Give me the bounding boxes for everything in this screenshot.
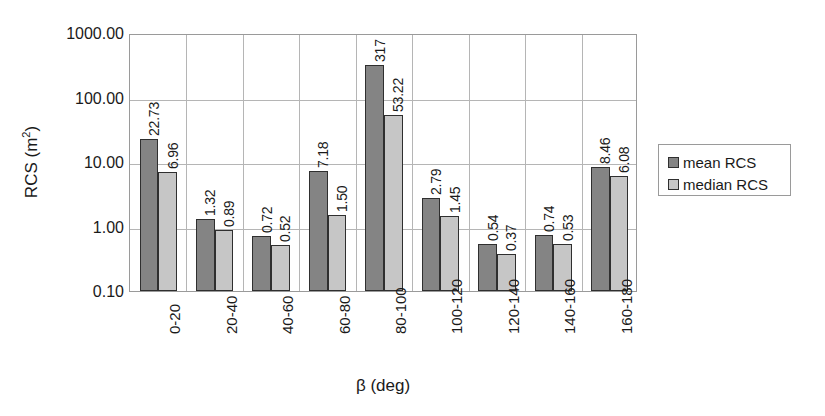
x-axis-tick-label: 160-180	[619, 304, 634, 324]
legend-swatch-icon	[668, 157, 679, 168]
x-axis-tick-label: 140-160	[562, 304, 577, 324]
bar-value-label: 1.50	[335, 186, 349, 212]
bar-mean-rcs[interactable]: 0.54	[478, 244, 497, 291]
bar-value-label: 0.54	[486, 214, 500, 240]
bar-group-bars: 0.720.52	[243, 35, 299, 291]
bar-group: 1.320.89	[186, 35, 242, 291]
bar-value-label: 0.53	[561, 215, 575, 241]
bar-value-label: 0.72	[260, 206, 274, 232]
bar-value-label: 6.08	[617, 147, 631, 173]
bar-group-bars: 0.740.53	[525, 35, 581, 291]
bar-group: 0.740.53	[525, 35, 581, 291]
y-axis-title-text: RCS (m	[22, 138, 41, 198]
chart-legend: mean RCSmedian RCS	[658, 144, 791, 196]
bar-value-label: 0.74	[542, 205, 556, 231]
bar-mean-rcs[interactable]: 8.46	[591, 167, 610, 291]
y-axis-tick-labels: 1000.00100.0010.001.000.10	[44, 0, 124, 416]
legend-swatch-icon	[668, 179, 679, 190]
x-axis-tick-label: 100-120	[449, 304, 464, 324]
bar-median-rcs[interactable]: 1.50	[328, 215, 347, 291]
bar-group-bars: 31753.22	[356, 35, 412, 291]
bar-value-label: 1.45	[448, 187, 462, 213]
legend-item[interactable]: median RCS	[668, 173, 790, 195]
y-axis-title: RCS (m2)	[20, 102, 44, 222]
bar-mean-rcs[interactable]: 0.72	[252, 236, 271, 291]
y-axis-tick-label: 10.00	[46, 155, 124, 171]
bar-value-label: 53.22	[391, 78, 405, 112]
bar-mean-rcs[interactable]: 22.73	[140, 139, 159, 291]
bar-median-rcs[interactable]: 53.22	[384, 115, 403, 291]
y-axis-tick-label: 1.00	[46, 220, 124, 236]
bar-group-bars: 0.540.37	[469, 35, 525, 291]
bar-median-rcs[interactable]: 6.96	[158, 172, 177, 291]
bar-mean-rcs[interactable]: 1.32	[196, 219, 215, 291]
bar-value-label: 7.18	[316, 142, 330, 168]
x-axis-tick-label: 120-140	[506, 304, 521, 324]
bar-value-label: 2.79	[429, 168, 443, 194]
x-axis-title: β (deg)	[129, 376, 637, 396]
bar-median-rcs[interactable]: 0.89	[215, 230, 234, 291]
x-axis-tick-labels: 0-2020-4040-6060-8080-100100-120120-1401…	[129, 294, 637, 370]
bar-group: 8.466.08	[582, 35, 638, 291]
x-axis-tick-label: 60-80	[337, 304, 352, 324]
x-axis-tick-label: 0-20	[167, 304, 182, 324]
bar-value-label: 0.52	[278, 215, 292, 241]
bar-value-label: 317	[373, 39, 387, 62]
bar-median-rcs[interactable]: 6.08	[610, 176, 629, 291]
legend-item[interactable]: mean RCS	[668, 151, 790, 173]
bar-value-label: 8.46	[598, 137, 612, 163]
bar-group: 0.540.37	[469, 35, 525, 291]
bar-group: 2.791.45	[412, 35, 468, 291]
bar-mean-rcs[interactable]: 7.18	[309, 171, 328, 291]
bar-group-bars: 2.791.45	[412, 35, 468, 291]
x-axis-tick-label: 20-40	[224, 304, 239, 324]
bar-group: 31753.22	[356, 35, 412, 291]
bar-value-label: 6.96	[166, 143, 180, 169]
bar-group: 7.181.50	[299, 35, 355, 291]
bar-group: 22.736.96	[130, 35, 186, 291]
legend-item-label: mean RCS	[683, 154, 756, 171]
y-axis-tick-label: 100.00	[46, 91, 124, 107]
legend-item-label: median RCS	[683, 176, 768, 193]
bar-group-bars: 8.466.08	[582, 35, 638, 291]
bar-group: 0.720.52	[243, 35, 299, 291]
y-axis-title-exponent: 2	[20, 132, 32, 138]
x-axis-tick-label: 80-100	[393, 304, 408, 324]
bar-value-label: 22.73	[147, 102, 161, 136]
bar-mean-rcs[interactable]: 0.74	[535, 235, 554, 291]
bar-group-bars: 22.736.96	[130, 35, 186, 291]
bar-mean-rcs[interactable]: 317	[365, 65, 384, 291]
bar-value-label: 0.89	[222, 200, 236, 226]
bar-value-label: 0.37	[504, 225, 518, 251]
bar-median-rcs[interactable]: 0.52	[271, 245, 290, 291]
bar-mean-rcs[interactable]: 2.79	[422, 198, 441, 291]
y-axis-tick-label: 0.10	[46, 284, 124, 300]
y-axis-title-paren: )	[22, 126, 41, 132]
plot-area: 22.736.961.320.890.720.527.181.5031753.2…	[129, 34, 637, 292]
x-axis-tick-label: 40-60	[280, 304, 295, 324]
bar-group-bars: 7.181.50	[299, 35, 355, 291]
bar-group-bars: 1.320.89	[186, 35, 242, 291]
bar-value-label: 1.32	[203, 189, 217, 215]
chart-figure: RCS (m2) 1000.00100.0010.001.000.10 22.7…	[0, 0, 825, 416]
y-axis-tick-label: 1000.00	[46, 26, 124, 42]
